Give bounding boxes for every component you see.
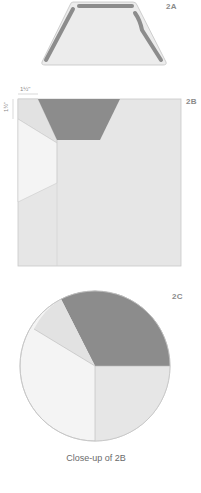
dimension-left: 1½" [3,102,9,112]
figure-2c-caption: Close-up of 2B [0,453,192,463]
figure-2b-square [13,94,181,266]
dimension-top: 1½" [20,86,30,92]
figure-2a-label: 2A [166,2,177,11]
figure-2c-circle [20,291,170,441]
figure-2b-label: 2B [186,97,197,106]
pattern-diagram [0,0,201,493]
figure-2c-label: 2C [172,292,183,301]
figure-2a-trapezoid [42,2,166,65]
